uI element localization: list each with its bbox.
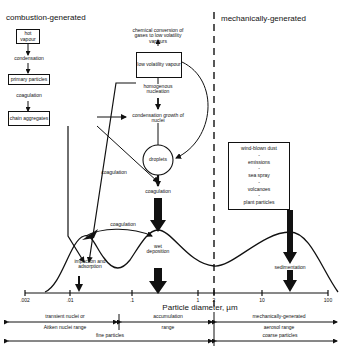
- source-plant-particles: plant particles: [244, 200, 275, 206]
- arrow-sedimentation: [283, 270, 297, 292]
- label-wet-deposition: wet deposition: [143, 244, 173, 255]
- tick-label: .1: [124, 298, 140, 303]
- bold-arrow-mechanical: [283, 210, 297, 264]
- label-coagulation-center: coagulation: [138, 189, 178, 194]
- label-chemical-conversion: chemical conversion of gases to low vola…: [130, 28, 186, 44]
- droplets-label: droplets: [143, 157, 173, 162]
- range-fine-particles: fine particles: [80, 333, 140, 338]
- source-sea-spray: sea spray: [248, 173, 270, 179]
- arrow-impaction: [75, 276, 83, 292]
- bold-arrow-wet-deposition: [149, 268, 167, 294]
- tick-label: 100: [320, 298, 336, 303]
- label-condensation-growth: condensation growth of nuclei: [128, 113, 188, 124]
- bold-arrow-accumulation: [150, 198, 166, 232]
- range-transient-line2: Aitken nuclei range: [20, 325, 110, 330]
- label-sedimentation: sedimentation: [268, 265, 312, 270]
- header-combustion-generated: combustion-generated: [6, 13, 86, 22]
- range-mechanical-line1: mechanically-generated: [226, 314, 332, 319]
- tick-label: .01: [62, 298, 78, 303]
- box-primary-particles: primary particles: [8, 74, 50, 85]
- tick-label: .002: [17, 298, 33, 303]
- label-homogeneous-nucleation: homogenous nucleation: [138, 84, 178, 95]
- separator: -: [258, 180, 260, 186]
- separator: -: [258, 153, 260, 159]
- label-coagulation-diagonal: coagulation: [94, 170, 134, 175]
- label-coagulation-curve: coagulation: [103, 222, 143, 227]
- box-hot-vapour: hot vapour: [16, 29, 40, 44]
- label-coagulation-left: coagulation: [8, 93, 50, 98]
- range-mechanical-line2: aerosol range: [226, 325, 332, 330]
- aerosol-formation-diagram: combustion-generated mechanically-genera…: [0, 0, 347, 358]
- tick-label: 10: [254, 298, 270, 303]
- box-mechanical-sources: wind-blown dust - emissions - sea spray …: [228, 142, 290, 210]
- box-chain-aggregates: chain aggregates: [8, 111, 50, 126]
- header-mechanically-generated: mechanically-generated: [221, 14, 306, 23]
- source-wind-blown-dust: wind-blown dust: [241, 146, 277, 152]
- label-condensation: condensation: [8, 56, 50, 61]
- range-accumulation-line1: accumulation: [130, 314, 206, 319]
- range-transient-line1: transient nuclei or: [20, 314, 110, 319]
- x-axis-title: Particle diameter, µm: [140, 304, 260, 312]
- range-accumulation-line2: range: [130, 325, 206, 330]
- range-coarse-particles: coarse particles: [250, 333, 310, 338]
- box-low-volatility-vapour: low volatility vapour: [136, 52, 182, 78]
- label-impaction-adsorption: impaction and adsorption: [70, 259, 110, 270]
